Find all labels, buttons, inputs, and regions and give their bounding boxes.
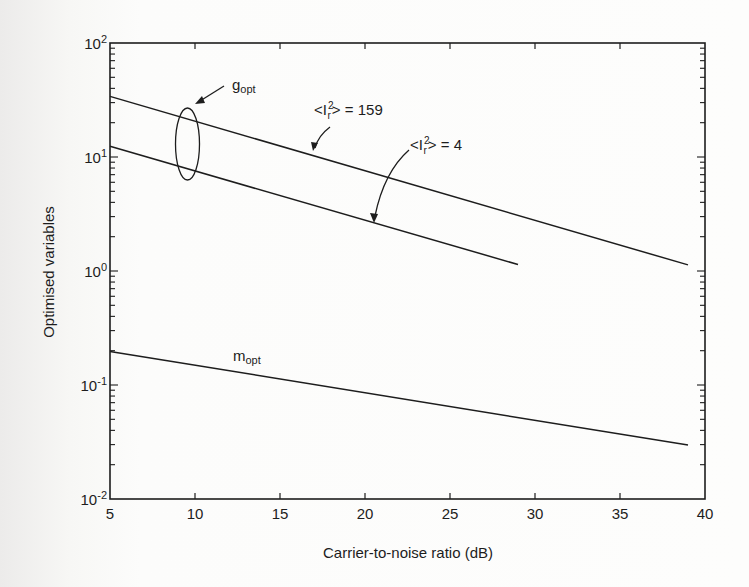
y-tick-label: 102 <box>84 33 107 52</box>
y-axis-label: Optimised variables <box>40 206 57 338</box>
x-tick-label: 20 <box>357 505 374 522</box>
chart: 10210110010-110-2 510152025303540 Carrie… <box>0 0 749 587</box>
y-tick-label: 10-2 <box>81 489 107 508</box>
x-tick-label: 10 <box>187 505 204 522</box>
arrow-head-icon <box>311 142 318 151</box>
ir2-159-arrow <box>315 127 330 148</box>
annotation-ir2-159: <I2r> = 159 <box>311 100 383 151</box>
x-tick-labels: 510152025303540 <box>106 505 714 522</box>
series-line-2 <box>110 351 688 445</box>
x-tick-label: 40 <box>697 505 714 522</box>
ir2-4-prefix: <I <box>410 136 423 153</box>
gopt-label-sub: opt <box>240 83 255 95</box>
arrow-head-icon <box>195 96 205 104</box>
x-tick-label: 15 <box>272 505 289 522</box>
x-tick-label: 5 <box>106 505 114 522</box>
ir2-159-prefix: <I <box>314 101 327 118</box>
gopt-arrow-shaft <box>200 86 224 101</box>
y-tick-label: 101 <box>84 147 107 166</box>
x-axis-label: Carrier-to-noise ratio (dB) <box>323 544 493 561</box>
series-line-1 <box>110 146 518 264</box>
annotation-ir2-4: <I2r> = 4 <box>370 135 462 223</box>
x-tick-label: 35 <box>612 505 629 522</box>
gopt-label-main: g <box>232 76 240 93</box>
plot-frame <box>110 43 705 499</box>
annotation-mopt: mopt <box>233 347 261 366</box>
svg-text:<I2r> = 159: <I2r> = 159 <box>314 100 383 121</box>
x-tick-label: 25 <box>442 505 459 522</box>
annotation-gopt: gopt <box>176 76 256 180</box>
svg-text:<I2r> = 4: <I2r> = 4 <box>410 135 462 156</box>
y-tick-labels: 10210110010-110-2 <box>81 33 107 508</box>
x-tick-label: 30 <box>527 505 544 522</box>
ir2-4-arrow <box>375 150 409 216</box>
mopt-label-main: m <box>233 347 246 364</box>
series-lines <box>110 96 688 445</box>
svg-text:gopt: gopt <box>232 76 256 95</box>
axis-ticks <box>110 43 705 499</box>
y-tick-label: 10-1 <box>81 375 107 394</box>
ir2-159-suffix: > = 159 <box>332 101 383 118</box>
ir2-4-suffix: > = 4 <box>428 136 462 153</box>
y-tick-label: 100 <box>84 261 107 280</box>
figure-page: 10210110010-110-2 510152025303540 Carrie… <box>0 0 749 587</box>
mopt-label-sub: opt <box>246 354 261 366</box>
